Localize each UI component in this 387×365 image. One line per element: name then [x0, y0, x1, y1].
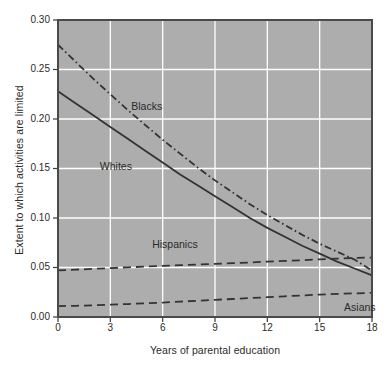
series-label-blacks: Blacks	[131, 100, 162, 112]
series-label-whites: Whites	[100, 160, 132, 172]
plot-canvas	[0, 0, 387, 365]
series-label-asians: Asians	[344, 301, 376, 313]
chart-figure: Extent to which activities are limited Y…	[0, 0, 387, 365]
series-label-hispanics: Hispanics	[152, 238, 198, 250]
